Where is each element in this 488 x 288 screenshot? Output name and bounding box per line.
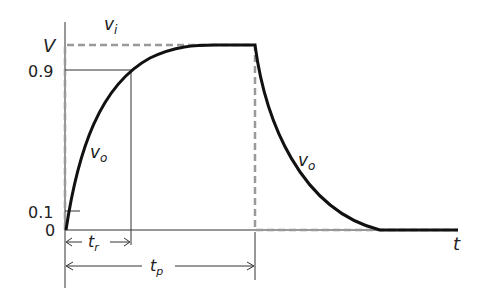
ytick-0: 0 — [45, 221, 55, 240]
x-axis-label-t: t — [453, 233, 461, 254]
diagram-svg: vi V 0.9 0.1 0 vo vo t tr tp — [0, 0, 488, 288]
ytick-09: 0.9 — [28, 62, 53, 81]
ytick-01: 0.1 — [28, 203, 53, 222]
label-vo-fall: vo — [298, 150, 315, 173]
label-vi: vi — [104, 14, 118, 37]
label-tr: tr — [88, 232, 100, 254]
ytick-V: V — [43, 35, 57, 56]
label-vo-rise: vo — [90, 142, 107, 165]
label-tp: tp — [150, 256, 163, 278]
pulse-diagram: vi V 0.9 0.1 0 vo vo t tr tp — [0, 0, 488, 288]
input-pulse-vi — [65, 45, 458, 230]
output-curve-vo — [66, 45, 458, 230]
